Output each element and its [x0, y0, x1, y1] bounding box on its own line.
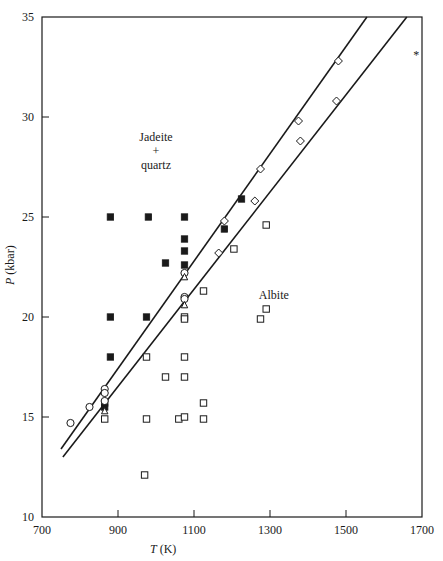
open-square-marker — [181, 354, 187, 360]
region-label: quartz — [141, 158, 171, 172]
filled-square-marker — [181, 248, 187, 254]
boundary-1-line — [61, 17, 367, 449]
filled-square-marker — [143, 314, 149, 320]
filled-square-marker — [107, 214, 113, 220]
open-square-marker — [141, 472, 147, 478]
open-square-marker — [257, 316, 263, 322]
open-square-marker — [263, 306, 269, 312]
plot-border — [42, 17, 422, 517]
open-diamond-marker — [215, 249, 223, 257]
open-square-marker — [162, 374, 168, 380]
filled-square-marker — [221, 226, 227, 232]
open-square-marker — [181, 374, 187, 380]
x-tick-label: 1300 — [258, 523, 282, 537]
open-square-marker — [263, 222, 269, 228]
filled-square-marker — [107, 354, 113, 360]
boundary-2-line — [63, 17, 407, 457]
open-diamond-marker — [334, 57, 342, 65]
y-tick-label: 25 — [22, 210, 34, 224]
chart: 7009001100130015001700101520253035 Jadei… — [0, 0, 443, 561]
x-tick-label: 1700 — [410, 523, 434, 537]
region-label: Jadeite — [139, 130, 172, 144]
y-tick-label: 20 — [22, 310, 34, 324]
x-tick-label: 900 — [109, 523, 127, 537]
open-square-marker — [200, 288, 206, 294]
open-diamond-marker — [220, 217, 228, 225]
plot-frame — [42, 17, 422, 517]
axis-ticks: 7009001100130015001700101520253035 — [22, 10, 434, 537]
filled-square-marker — [181, 262, 187, 268]
x-tick-label: 700 — [33, 523, 51, 537]
data-markers — [67, 57, 343, 478]
y-tick-label: 15 — [22, 410, 34, 424]
region-label: Albite — [259, 288, 289, 302]
y-tick-label: 30 — [22, 110, 34, 124]
open-circle-marker — [86, 403, 93, 410]
x-axis-title: T (K) — [150, 542, 176, 556]
open-square-marker — [181, 316, 187, 322]
region-label: * — [413, 48, 419, 62]
filled-square-marker — [145, 214, 151, 220]
open-circle-marker — [101, 397, 108, 404]
y-tick-label: 35 — [22, 10, 34, 24]
y-axis-title: P (kbar) — [3, 245, 17, 286]
open-square-marker — [200, 400, 206, 406]
open-square-marker — [102, 416, 108, 422]
x-tick-label: 1500 — [334, 523, 358, 537]
filled-square-marker — [107, 314, 113, 320]
open-circle-marker — [67, 419, 74, 426]
open-square-marker — [143, 354, 149, 360]
filled-square-marker — [181, 236, 187, 242]
filled-square-marker — [181, 214, 187, 220]
y-tick-label: 10 — [22, 510, 34, 524]
filled-square-marker — [238, 196, 244, 202]
open-circle-marker — [101, 389, 108, 396]
region-label: + — [153, 144, 160, 158]
open-square-marker — [231, 246, 237, 252]
open-square-marker — [181, 414, 187, 420]
open-diamond-marker — [251, 197, 259, 205]
open-square-marker — [143, 416, 149, 422]
x-tick-label: 1100 — [182, 523, 206, 537]
filled-square-marker — [162, 260, 168, 266]
phase-boundaries — [61, 17, 407, 457]
open-diamond-marker — [296, 137, 304, 145]
open-square-marker — [200, 416, 206, 422]
